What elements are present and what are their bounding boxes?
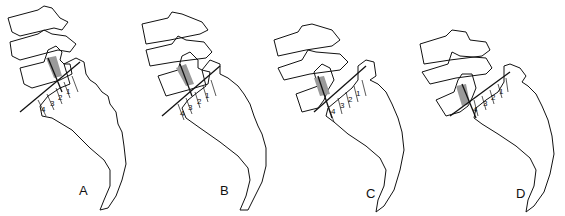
grade-4-label: 4 (41, 105, 46, 114)
grade-2-label: 2 (348, 95, 353, 104)
grade-2-label: 2 (197, 97, 202, 106)
grade-1-label: 1 (499, 87, 504, 96)
panel-d: 4 3 2 1 D (410, 0, 565, 216)
panel-label: A (79, 183, 88, 198)
grade-1-label: 1 (205, 91, 210, 100)
grade-3-label: 3 (50, 99, 55, 108)
shaded-slip-region (176, 64, 194, 86)
panel-label: D (516, 186, 525, 201)
grade-4-label: 4 (473, 105, 478, 114)
grade-3-label: 3 (340, 101, 345, 110)
panel-label: C (366, 186, 375, 201)
grade-1-label: 1 (356, 89, 361, 98)
grade-4-label: 4 (331, 107, 336, 116)
grade-3-label: 3 (483, 99, 488, 108)
panel-a: 4 3 2 1 A (0, 0, 145, 216)
grade-2-label: 2 (491, 93, 496, 102)
panel-b-drawing: 4 3 2 1 (140, 0, 285, 216)
panel-c: 4 3 2 1 C (270, 0, 415, 216)
grade-2-label: 2 (58, 93, 63, 102)
panel-d-drawing: 4 3 2 1 (410, 0, 565, 216)
grade-1-label: 1 (66, 87, 71, 96)
panel-label: B (220, 183, 229, 198)
panel-a-drawing: 4 3 2 1 (0, 0, 145, 216)
panel-b: 4 3 2 1 B (140, 0, 285, 216)
grade-4-label: 4 (180, 109, 185, 118)
spondylolisthesis-figure: 4 3 2 1 A (0, 0, 565, 216)
panel-c-drawing: 4 3 2 1 (270, 0, 415, 216)
grade-3-label: 3 (188, 103, 193, 112)
